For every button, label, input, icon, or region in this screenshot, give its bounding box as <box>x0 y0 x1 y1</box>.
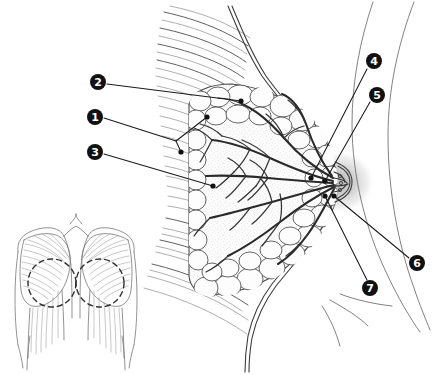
callout-2-circle[interactable] <box>90 74 106 90</box>
callout-3-marker[interactable]: 3 <box>87 144 103 160</box>
breast-region-marker-right <box>76 259 124 307</box>
callout-1-circle[interactable] <box>87 109 103 125</box>
callout-7-circle[interactable] <box>362 280 378 296</box>
glandular-tissue <box>186 84 348 299</box>
arm-fibers-left <box>28 290 64 358</box>
breast-region-marker-left <box>28 259 76 307</box>
arm-fibers-right <box>88 290 124 358</box>
callout-1-marker[interactable]: 1 <box>87 109 103 125</box>
callout-7-marker[interactable]: 7 <box>362 280 378 296</box>
callout-5-circle[interactable] <box>369 87 385 103</box>
breast-anatomy-figure: 1234567 <box>0 0 448 375</box>
callout-6-marker[interactable]: 6 <box>409 255 425 271</box>
anatomy-illustration: 1234567 <box>0 0 448 375</box>
callout-4-circle[interactable] <box>366 53 382 69</box>
callout-5-marker[interactable]: 5 <box>369 87 385 103</box>
torso-inset <box>15 214 137 370</box>
callout-2-marker[interactable]: 2 <box>90 74 106 90</box>
callout-3-circle[interactable] <box>87 144 103 160</box>
callout-6-circle[interactable] <box>409 255 425 271</box>
callout-4-marker[interactable]: 4 <box>366 53 382 69</box>
